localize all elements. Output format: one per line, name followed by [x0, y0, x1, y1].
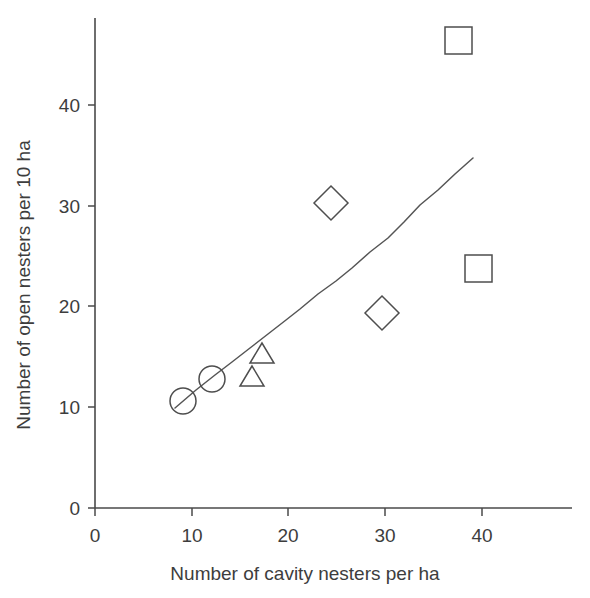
data-point-diamond-2	[365, 296, 399, 330]
x-tick-label-0: 0	[90, 525, 101, 546]
plot-canvas: 0 10 20 30 40 0 10 20 30 40 Number of ca…	[0, 0, 590, 598]
x-tick-label-40: 40	[471, 525, 492, 546]
data-point-square-2	[465, 255, 492, 282]
x-tick-label-20: 20	[277, 525, 298, 546]
regression-line	[175, 158, 473, 408]
axis-lines	[95, 18, 572, 508]
data-point-diamond-1	[314, 186, 348, 220]
data-point-circle-2	[199, 366, 225, 392]
x-tick-label-10: 10	[181, 525, 202, 546]
x-axis-tick-labels: 0 10 20 30 40	[90, 525, 493, 546]
data-point-square-1	[445, 27, 472, 54]
y-tick-label-0: 0	[69, 498, 80, 519]
data-point-triangle-1	[240, 366, 264, 386]
x-axis-ticks	[95, 508, 482, 516]
y-axis-title: Number of open nesters per 10 ha	[13, 140, 34, 430]
y-tick-label-20: 20	[59, 296, 80, 317]
x-axis-title: Number of cavity nesters per ha	[170, 563, 440, 584]
y-axis-ticks	[88, 105, 95, 508]
scatter-plot-figure: 0 10 20 30 40 0 10 20 30 40 Number of ca…	[0, 0, 590, 598]
data-markers	[170, 27, 492, 414]
y-tick-label-30: 30	[59, 196, 80, 217]
x-tick-label-30: 30	[374, 525, 395, 546]
y-tick-label-10: 10	[59, 397, 80, 418]
y-axis-tick-labels: 0 10 20 30 40	[59, 95, 80, 519]
y-tick-label-40: 40	[59, 95, 80, 116]
